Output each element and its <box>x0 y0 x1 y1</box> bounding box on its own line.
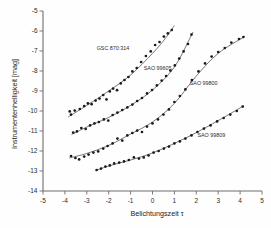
data-point <box>70 113 73 116</box>
data-point <box>95 169 98 172</box>
data-point <box>151 122 154 125</box>
y-tick-label: -6 <box>32 27 38 34</box>
data-point <box>93 122 96 125</box>
data-point <box>152 151 155 154</box>
x-tick-label: 4 <box>238 197 242 204</box>
data-point <box>135 67 138 70</box>
data-point <box>70 155 73 158</box>
data-point <box>87 102 90 105</box>
data-point <box>173 64 176 67</box>
series-label: SAO 99809 <box>197 132 225 138</box>
data-point <box>131 103 134 106</box>
y-tick-label: -14 <box>28 187 38 194</box>
data-point <box>156 84 159 87</box>
series-group <box>69 36 244 161</box>
y-tick-label: -10 <box>28 107 38 114</box>
series-fit-curve <box>69 37 244 158</box>
data-point <box>235 110 238 113</box>
data-point <box>119 82 122 85</box>
data-point <box>223 47 226 50</box>
data-point <box>163 35 166 38</box>
data-point <box>141 131 144 134</box>
x-axis-title: Belichtungszeit τ <box>130 209 183 218</box>
data-point <box>126 106 129 109</box>
data-point <box>157 118 160 121</box>
data-point <box>136 100 139 103</box>
data-point <box>83 155 86 158</box>
data-point <box>131 132 134 135</box>
data-point <box>182 50 185 53</box>
scatter-plot: -14-13-12-11-10-9-8-7-6-5-5-4-3-2-101234… <box>0 0 271 228</box>
series-group <box>71 32 193 135</box>
data-point <box>154 44 157 47</box>
series-layer <box>68 25 245 171</box>
y-tick-label: -7 <box>32 47 38 54</box>
x-tick-label: -4 <box>62 197 68 204</box>
data-point <box>230 41 233 44</box>
data-point <box>149 50 152 53</box>
data-point <box>163 147 166 150</box>
data-point <box>158 41 161 44</box>
series-group <box>68 25 174 117</box>
data-point <box>94 99 97 102</box>
data-point <box>162 113 165 116</box>
data-point <box>179 95 182 98</box>
data-point <box>170 29 173 32</box>
data-point <box>103 118 106 121</box>
data-point <box>131 70 134 73</box>
y-axis-title: Instrumentenhelligkeit [mag] <box>10 59 19 149</box>
data-point <box>116 89 119 92</box>
data-point <box>73 109 76 112</box>
series-fit-curve <box>68 25 174 117</box>
data-point <box>197 70 200 73</box>
data-point <box>133 156 136 159</box>
y-tick-label: -11 <box>29 127 38 134</box>
data-point <box>184 88 187 91</box>
y-tick-label: -9 <box>32 87 38 94</box>
data-point <box>100 167 103 170</box>
data-point <box>127 159 130 162</box>
data-point <box>116 111 119 114</box>
data-point <box>112 87 115 90</box>
data-point <box>123 79 126 82</box>
data-point <box>104 165 107 168</box>
data-point <box>242 36 245 39</box>
data-point <box>222 117 225 120</box>
data-point <box>72 131 75 134</box>
data-point <box>216 120 219 123</box>
chart-container: -14-13-12-11-10-9-8-7-6-5-5-4-3-2-101234… <box>0 0 271 228</box>
data-point <box>146 92 149 95</box>
data-point <box>89 124 92 127</box>
y-tick-label: -13 <box>28 167 38 174</box>
data-point <box>121 109 124 112</box>
data-point <box>106 145 109 148</box>
x-tick-label: -5 <box>40 197 46 204</box>
data-point <box>116 137 119 140</box>
x-tick-label: -2 <box>106 197 112 204</box>
data-point <box>140 61 143 64</box>
data-point <box>184 137 187 140</box>
data-point <box>141 97 144 100</box>
data-point <box>217 51 220 54</box>
data-point <box>210 55 213 58</box>
data-point <box>160 79 163 82</box>
data-point <box>168 108 171 111</box>
x-tick-label: 2 <box>194 197 198 204</box>
data-point <box>78 108 81 111</box>
data-point <box>80 127 83 130</box>
data-point <box>108 164 111 167</box>
data-point <box>190 33 193 36</box>
data-point <box>165 75 168 78</box>
data-point <box>145 55 148 58</box>
series-label: GSC 870:314 <box>97 45 130 51</box>
data-point <box>229 113 232 116</box>
data-point <box>204 62 207 65</box>
data-point <box>241 105 244 108</box>
data-point <box>190 134 193 137</box>
x-tick-label: 1 <box>173 197 177 204</box>
x-tick-label: 5 <box>260 197 264 204</box>
data-point <box>173 101 176 104</box>
y-tick-label: -8 <box>32 67 38 74</box>
data-point <box>111 114 114 117</box>
data-point <box>107 119 110 122</box>
